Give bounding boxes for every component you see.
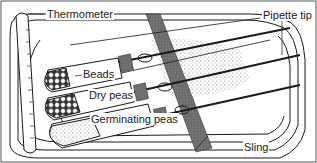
germinating-peas-label: Germinating peas — [90, 113, 179, 125]
thermometer — [16, 13, 36, 153]
dry-peas-label: Dry peas — [88, 89, 134, 101]
pipette-tip-label: Pipette tip — [262, 9, 313, 21]
thermometer-label: Thermometer — [46, 8, 114, 20]
sling-label: Sling — [243, 141, 269, 153]
respirometer-diagram — [0, 0, 317, 163]
beads-label: Beads — [82, 68, 115, 80]
